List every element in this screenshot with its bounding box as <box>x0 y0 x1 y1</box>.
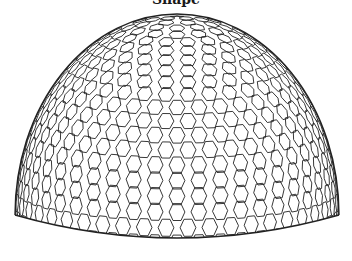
geodesic-dome-figure <box>0 0 352 261</box>
hexagon-cells <box>15 16 339 252</box>
dome-base-rim <box>15 215 339 238</box>
hexagon-mesh <box>15 16 339 252</box>
